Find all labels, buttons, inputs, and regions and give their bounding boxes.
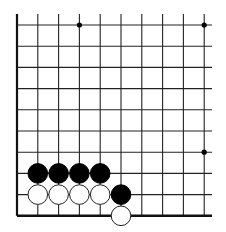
white-stone[interactable] [70,185,90,205]
white-stone[interactable] [28,185,48,205]
white-stone[interactable] [90,185,110,205]
star-point-icon [202,150,207,155]
white-stone[interactable] [49,185,69,205]
white-stone[interactable] [111,206,131,226]
black-stone[interactable] [49,164,69,184]
star-point-icon [202,22,207,27]
board-grid [17,14,212,216]
go-board[interactable] [0,0,226,232]
black-stone[interactable] [70,164,90,184]
black-stone[interactable] [111,185,131,205]
black-stone[interactable] [28,164,48,184]
black-stone[interactable] [90,164,110,184]
star-point-icon [77,22,82,27]
